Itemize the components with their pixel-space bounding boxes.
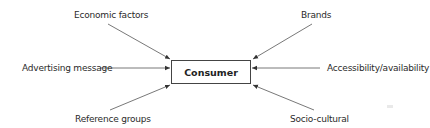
factor-advertising: Advertising message	[22, 63, 112, 74]
factor-socio: Socio-cultural	[290, 114, 349, 125]
arrow-economic	[108, 24, 170, 59]
factor-economic: Economic factors	[74, 10, 148, 21]
arrow-socio	[253, 85, 314, 110]
factor-reference: Reference groups	[75, 114, 151, 125]
arrow-brands	[253, 24, 312, 59]
arrow-reference	[110, 85, 170, 110]
factor-brands: Brands	[301, 10, 331, 21]
factor-accessibility: Accessibility/availability	[327, 63, 429, 74]
consumer-box: Consumer	[171, 60, 251, 84]
scan-artifact	[387, 105, 393, 108]
consumer-label: Consumer	[184, 67, 238, 78]
diagram-canvas: Consumer Economic factors Brands Adverti…	[0, 0, 430, 128]
